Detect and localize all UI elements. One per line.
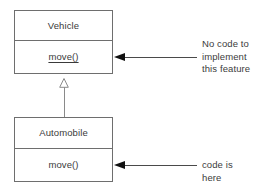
class-name-automobile: Automobile <box>39 128 88 138</box>
class-box-vehicle[interactable]: Vehicle move() <box>14 10 113 74</box>
callout-arrowhead-vehicle <box>114 53 125 61</box>
class-box-automobile[interactable]: Automobile move() <box>14 117 113 182</box>
generalization-triangle-svg <box>59 78 69 88</box>
operation-vehicle-move: move() <box>48 52 78 62</box>
annotation-vehicle-note: No code to implement this feature <box>202 38 271 76</box>
class-operations-compartment-automobile: move() <box>15 149 112 181</box>
uml-class-diagram: Vehicle move() Automobile move() No code… <box>0 0 271 191</box>
class-name-compartment-automobile: Automobile <box>15 118 112 149</box>
operation-automobile-move: move() <box>48 160 78 170</box>
generalization-stem <box>64 83 65 117</box>
callout-arrowhead-automobile <box>114 161 125 169</box>
callout-leader-line-automobile <box>125 165 197 166</box>
class-name-vehicle: Vehicle <box>48 21 79 31</box>
class-operations-compartment-vehicle: move() <box>15 41 112 73</box>
callout-leader-line-vehicle <box>125 57 197 58</box>
generalization-hollow-triangle-icon <box>59 74 69 84</box>
annotation-automobile-note: code is here <box>202 159 271 184</box>
class-name-compartment-vehicle: Vehicle <box>15 11 112 41</box>
